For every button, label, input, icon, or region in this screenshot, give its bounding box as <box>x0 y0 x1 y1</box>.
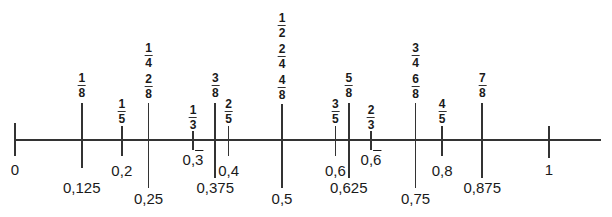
fraction-denominator: 3 <box>189 119 198 131</box>
endpoint-tick-one <box>548 126 550 158</box>
endpoint-tick-zero <box>14 123 16 156</box>
decimal-label: 0,2 <box>111 163 132 179</box>
decimal-label: 0,25 <box>134 191 163 207</box>
fraction-denominator: 4 <box>144 57 153 69</box>
decimal-label: 0,4 <box>218 163 239 179</box>
fraction-label: 35 <box>331 98 340 125</box>
fraction-numerator: 6 <box>411 73 420 85</box>
tick-eighth-3 <box>214 103 216 178</box>
fraction-numerator: 5 <box>344 72 353 84</box>
decimal-label: 0,6 <box>325 163 346 179</box>
decimal-value: 0,625 <box>330 179 368 196</box>
decimal-label: 0,625 <box>330 180 368 196</box>
fraction-label: 58 <box>344 72 353 99</box>
fraction-denominator: 5 <box>331 113 340 125</box>
decimal-value: 0,875 <box>463 179 501 196</box>
tick-eighth-1 <box>81 103 83 168</box>
tick-eighth-5 <box>348 103 350 178</box>
decimal-value: 0,75 <box>401 190 430 207</box>
endpoint-label-one: 1 <box>545 162 553 178</box>
fraction-denominator: 2 <box>278 27 287 39</box>
fraction-label: 28 <box>144 73 153 100</box>
tick-eighth-7 <box>481 103 483 178</box>
fraction-denominator: 4 <box>411 57 420 69</box>
number-line-diagram: 0 1 180,125150,214280,25130,3380,375250,… <box>0 0 612 217</box>
fraction-numerator: 1 <box>117 98 126 110</box>
tick-fifth-2 <box>228 126 230 156</box>
fraction-denominator: 8 <box>144 88 153 100</box>
fraction-denominator: 8 <box>478 87 487 99</box>
decimal-value: 0,8 <box>432 162 453 179</box>
decimal-label: 0,5 <box>272 191 293 207</box>
fraction-denominator: 8 <box>77 87 86 99</box>
decimal-label: 0,375 <box>196 180 234 196</box>
repeating-digit: 3 <box>195 151 203 168</box>
fraction-label: 48 <box>278 74 287 101</box>
fraction-numerator: 4 <box>438 98 447 110</box>
fraction-denominator: 8 <box>344 87 353 99</box>
decimal-label: 0,3 <box>183 152 204 168</box>
fraction-numerator: 1 <box>144 42 153 54</box>
fraction-denominator: 8 <box>278 89 287 101</box>
repeating-digit: 6 <box>373 151 381 168</box>
tick-fifth-4 <box>441 126 443 156</box>
fraction-numerator: 2 <box>144 73 153 85</box>
fraction-label: 14 <box>144 42 153 69</box>
fraction-numerator: 1 <box>278 12 287 24</box>
decimal-label: 0,125 <box>63 180 101 196</box>
fraction-numerator: 2 <box>224 98 233 110</box>
decimal-value: 0, <box>183 151 196 168</box>
fraction-numerator: 3 <box>331 98 340 110</box>
fraction-denominator: 5 <box>117 113 126 125</box>
number-line-axis <box>15 139 601 141</box>
fraction-numerator: 3 <box>411 42 420 54</box>
fraction-denominator: 5 <box>224 113 233 125</box>
fraction-label: 78 <box>478 72 487 99</box>
fraction-numerator: 1 <box>77 72 86 84</box>
fraction-numerator: 1 <box>189 104 198 116</box>
fraction-label: 68 <box>411 73 420 100</box>
fraction-label: 38 <box>211 72 220 99</box>
fraction-label: 18 <box>77 72 86 99</box>
endpoint-label-zero: 0 <box>11 162 19 178</box>
fraction-label: 24 <box>278 43 287 70</box>
fraction-label: 45 <box>438 98 447 125</box>
decimal-value: 0,5 <box>272 190 293 207</box>
decimal-value: 0, <box>361 151 374 168</box>
tick-half <box>281 104 283 188</box>
decimal-label: 0,6 <box>361 152 382 168</box>
decimal-value: 0,2 <box>111 162 132 179</box>
tick-quarter-3 <box>415 103 417 188</box>
fraction-numerator: 2 <box>367 104 376 116</box>
fraction-label: 13 <box>189 104 198 131</box>
decimal-value: 0,4 <box>218 162 239 179</box>
fraction-label: 25 <box>224 98 233 125</box>
tick-fifth-3 <box>335 126 337 156</box>
fraction-denominator: 8 <box>411 88 420 100</box>
fraction-numerator: 2 <box>278 43 287 55</box>
decimal-value: 0,375 <box>196 179 234 196</box>
decimal-label: 0,8 <box>432 163 453 179</box>
decimal-value: 0,6 <box>325 162 346 179</box>
fraction-label: 15 <box>117 98 126 125</box>
tick-third-2 <box>370 131 372 150</box>
fraction-denominator: 5 <box>438 113 447 125</box>
fraction-label: 34 <box>411 42 420 69</box>
fraction-denominator: 3 <box>367 119 376 131</box>
decimal-label: 0,875 <box>463 180 501 196</box>
tick-quarter-1 <box>148 103 150 188</box>
fraction-label: 12 <box>278 12 287 39</box>
decimal-value: 0,125 <box>63 179 101 196</box>
decimal-value: 0,25 <box>134 190 163 207</box>
fraction-numerator: 4 <box>278 74 287 86</box>
fraction-denominator: 4 <box>278 58 287 70</box>
fraction-numerator: 3 <box>211 72 220 84</box>
fraction-numerator: 7 <box>478 72 487 84</box>
fraction-label: 23 <box>367 104 376 131</box>
fraction-denominator: 8 <box>211 87 220 99</box>
tick-fifth-1 <box>121 126 123 156</box>
tick-third-1 <box>192 131 194 150</box>
decimal-label: 0,75 <box>401 191 430 207</box>
